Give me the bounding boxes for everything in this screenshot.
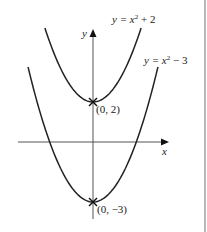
equation-label-lower: y = x2 − 3 [143,54,188,66]
y-axis-arrow-icon [90,29,97,37]
x-axis-label: x [161,145,167,157]
equation-label-upper: y = x2 + 2 [111,13,155,25]
y-axis-label: y [81,27,87,39]
vertex-label-upper: (0, 2) [96,103,120,116]
vertex-label-lower: (0, −3) [97,203,127,216]
parabola-diagram: x y (0, 2) (0, −3) y = x2 + 2 y = x2 − 3 [0,0,207,232]
